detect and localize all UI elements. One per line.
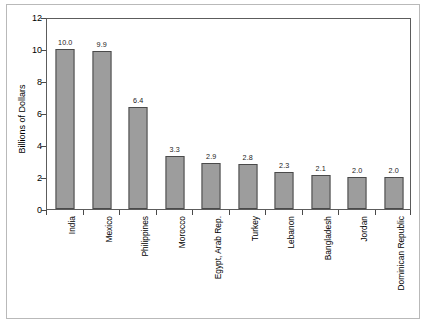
- bar[interactable]: [348, 177, 367, 209]
- bar-value-label: 2.0: [389, 166, 399, 175]
- x-axis-category-label: Bangladesh: [323, 216, 333, 260]
- bar-value-label: 2.0: [352, 166, 362, 175]
- x-axis-category-label: Jordan: [359, 216, 369, 242]
- bar-chart: Billions of Dollars 024681012 10.09.96.4…: [0, 0, 431, 336]
- bars-layer: 10.09.96.43.32.92.82.32.12.02.0: [47, 19, 410, 209]
- x-axis-labels: IndiaMexicoPhilippinesMoroccoEgypt, Arab…: [46, 214, 411, 324]
- bar-value-label: 2.9: [206, 152, 216, 161]
- x-axis-category-label: Dominican Republic: [396, 216, 406, 290]
- bar-value-label: 2.8: [243, 153, 253, 162]
- bar[interactable]: [165, 156, 184, 209]
- bar-group: 2.0: [376, 19, 413, 209]
- bar-group: 2.1: [303, 19, 340, 209]
- x-axis-category-label: Egypt, Arab Rep.: [213, 216, 223, 279]
- x-axis-category-label: Turkey: [250, 216, 260, 241]
- y-tick-label: 6: [6, 109, 46, 119]
- bar-group: 2.8: [230, 19, 267, 209]
- y-tick-label: 4: [6, 141, 46, 151]
- bar-group: 10.0: [47, 19, 84, 209]
- bar-group: 2.0: [339, 19, 376, 209]
- x-axis-category-label: India: [67, 216, 77, 234]
- bar[interactable]: [92, 51, 111, 209]
- bar-group: 9.9: [84, 19, 121, 209]
- bar[interactable]: [202, 163, 221, 209]
- plot-area: 10.09.96.43.32.92.82.32.12.02.0: [46, 18, 411, 210]
- y-axis: 024681012: [0, 0, 46, 336]
- bar[interactable]: [129, 107, 148, 209]
- y-tick-label: 12: [6, 13, 46, 23]
- x-axis-category-label: Morocco: [177, 216, 187, 248]
- bar-value-label: 2.1: [316, 164, 326, 173]
- bar-value-label: 2.3: [279, 161, 289, 170]
- y-tick-label: 0: [6, 205, 46, 215]
- y-tick-label: 2: [6, 173, 46, 183]
- bar-value-label: 9.9: [97, 40, 107, 49]
- bar-value-label: 10.0: [58, 38, 72, 47]
- bar[interactable]: [238, 164, 257, 209]
- bar-value-label: 3.3: [170, 145, 180, 154]
- bar-group: 3.3: [157, 19, 194, 209]
- bar-value-label: 6.4: [133, 96, 143, 105]
- bar-group: 2.3: [266, 19, 303, 209]
- x-axis-category-label: Lebanon: [286, 216, 296, 249]
- bar[interactable]: [311, 175, 330, 209]
- x-axis-category-label: Mexico: [104, 216, 114, 243]
- bar[interactable]: [56, 49, 75, 209]
- bar[interactable]: [275, 172, 294, 209]
- y-tick-label: 10: [6, 45, 46, 55]
- bar[interactable]: [384, 177, 403, 209]
- bar-group: 6.4: [120, 19, 157, 209]
- y-tick-label: 8: [6, 77, 46, 87]
- x-axis-category-label: Philippines: [140, 216, 150, 257]
- bar-group: 2.9: [193, 19, 230, 209]
